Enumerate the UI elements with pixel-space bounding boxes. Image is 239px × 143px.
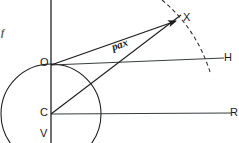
label-point-x: X (183, 12, 190, 23)
label-point-h: H (224, 52, 232, 63)
figure-canvas (0, 0, 239, 143)
geometric-figure: O C V X H R pax f (0, 0, 239, 143)
label-point-c: C (40, 107, 48, 118)
horizon-line-o-to-h (51, 58, 224, 65)
label-point-o: O (40, 57, 49, 68)
label-point-r: R (230, 107, 238, 118)
baseline-line-c-to-r (51, 113, 231, 114)
left-edge-mark: f (1, 28, 4, 38)
label-point-v: V (40, 128, 47, 139)
